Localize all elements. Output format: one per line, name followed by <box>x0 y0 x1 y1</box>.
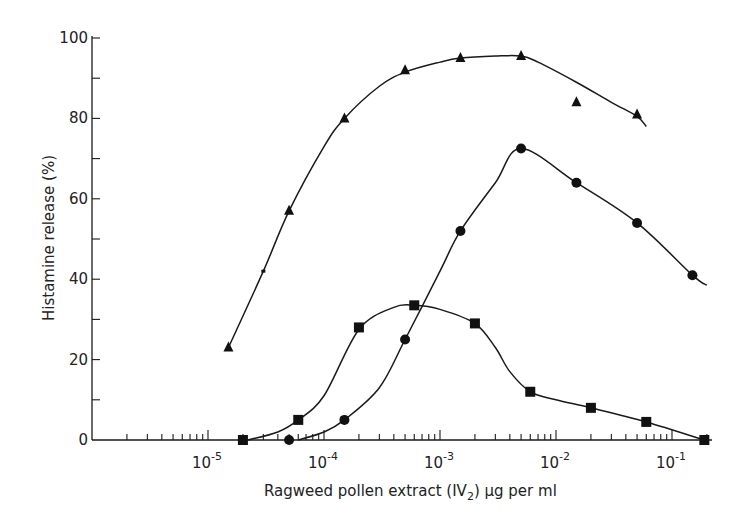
triangle-marker <box>284 205 294 215</box>
circle-marker <box>632 218 642 228</box>
y-tick-label: 0 <box>78 431 88 449</box>
square-marker <box>293 415 303 425</box>
triangle-marker <box>571 96 581 106</box>
triangle-marker <box>400 64 410 74</box>
square-marker <box>586 403 596 413</box>
x-tick-label: 10-3 <box>424 450 454 472</box>
circle-marker <box>400 335 410 345</box>
y-tick-label: 100 <box>59 29 88 47</box>
y-tick-label: 60 <box>69 190 88 208</box>
circle-marker <box>455 226 465 236</box>
square-marker <box>238 435 248 445</box>
circle-marker <box>571 178 581 188</box>
axes <box>92 36 712 440</box>
triangle-marker <box>223 342 233 352</box>
y-tick-label: 20 <box>69 351 88 369</box>
y-tick-label: 80 <box>69 109 88 127</box>
square-marker <box>641 417 651 427</box>
circle-marker <box>339 415 349 425</box>
square-marker <box>409 300 419 310</box>
square-marker <box>354 322 364 332</box>
square-marker <box>470 318 480 328</box>
x-tick-label: 10-2 <box>540 450 570 472</box>
circles-curve <box>298 149 707 440</box>
x-tick-label: 10-5 <box>192 450 222 472</box>
circle-marker <box>284 435 294 445</box>
square-marker <box>525 387 535 397</box>
square-marker <box>699 435 709 445</box>
histamine-release-chart: 020406080100 10-510-410-310-210-1 Histam… <box>0 0 752 524</box>
data-markers <box>223 50 709 445</box>
triangles-curve <box>228 56 646 348</box>
x-tick-label: 10-4 <box>308 450 338 472</box>
circle-marker <box>516 144 526 154</box>
dot-marker <box>261 270 265 273</box>
x-axis-title: Ragweed pollen extract (IV2) µg per ml <box>264 482 557 503</box>
x-ticks: 10-510-410-310-210-1 <box>127 430 707 472</box>
circle-marker <box>687 270 697 280</box>
y-tick-label: 40 <box>69 270 88 288</box>
y-axis-title: Histamine release (%) <box>40 155 58 321</box>
x-tick-label: 10-1 <box>656 450 686 472</box>
y-ticks: 020406080100 <box>59 29 100 449</box>
